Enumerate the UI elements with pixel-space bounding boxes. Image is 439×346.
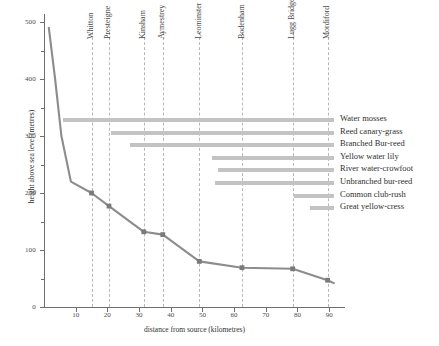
data-point-marker: [89, 191, 94, 196]
data-point-marker: [197, 259, 202, 264]
data-point-marker: [160, 232, 165, 237]
river-profile-line: [0, 0, 439, 346]
data-point-marker: [240, 265, 245, 270]
data-point-marker: [141, 229, 146, 234]
data-point-marker: [325, 278, 330, 283]
chart-canvas: height above sea level (metres) distance…: [0, 0, 439, 346]
data-point-marker: [290, 266, 295, 271]
data-point-marker: [107, 204, 112, 209]
